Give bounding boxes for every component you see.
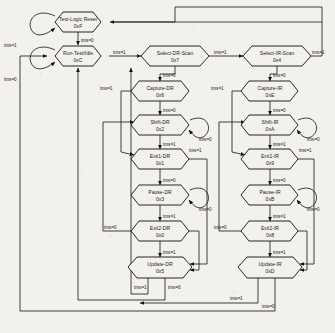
label-pauseir-self: tms=0 xyxy=(307,207,320,212)
label-seldr-to-capdr: tms=0 xyxy=(163,73,176,78)
state-run-test-idle[interactable]: Run-Test/Idle 0xC xyxy=(55,46,101,66)
label-exit1ir-to-pause: tms=0 xyxy=(273,178,286,183)
state-code: 0x8 xyxy=(266,232,274,238)
state-code: 0xA xyxy=(266,126,275,132)
edge-pauseir-self xyxy=(297,188,317,208)
label-capdr-to-shiftdr: tms=0 xyxy=(163,108,176,113)
state-pause-dr[interactable]: Pause-DR 0x3 xyxy=(131,185,189,205)
edge-tlr-self xyxy=(30,13,55,35)
state-code: 0xD xyxy=(265,268,274,274)
state-name: Exit1-DR xyxy=(150,153,171,159)
label-rti-self: tms=0 xyxy=(4,77,17,82)
label-shiftdr-to-exit1: tms=1 xyxy=(163,142,176,147)
state-select-ir-scan[interactable]: Select-IR-Scan 0x4 xyxy=(243,46,311,66)
label-seldr-to-selir: tms=1 xyxy=(214,50,227,55)
state-code: 0x6 xyxy=(156,92,164,98)
label-pausedr-to-exit2: tms=1 xyxy=(163,214,176,219)
label-capdr-to-exit1dr: tms=1 xyxy=(100,86,113,91)
state-name: Run-Test/Idle xyxy=(63,50,93,56)
state-pause-ir[interactable]: Pause-IR 0xB xyxy=(241,185,298,205)
state-code: 0xB xyxy=(266,196,275,202)
label-exit2dr-to-update: tms=1 xyxy=(163,250,176,255)
label-pauseir-to-exit2: tms=1 xyxy=(273,214,286,219)
state-shift-ir[interactable]: Shift-IR 0xA xyxy=(241,115,298,135)
state-code: 0x4 xyxy=(273,57,281,63)
state-name: Exit2-DR xyxy=(150,225,171,231)
state-test-logic-reset[interactable]: Test-Logic Reset 0xF xyxy=(55,12,101,32)
label-exit1dr-to-update: tms=1 xyxy=(189,148,202,153)
state-code: 0x0 xyxy=(156,232,164,238)
edge-shiftdr-self xyxy=(189,118,209,138)
state-diagram-canvas: tms=1 tms=0 tms=0 tms=1 tms=1 tms=0 tms=… xyxy=(0,0,335,333)
label-capir-to-exit1ir: tms=1 xyxy=(211,86,224,91)
state-name: Exit2-IR xyxy=(261,225,279,231)
state-name: Update-IR xyxy=(258,261,282,267)
state-capture-dr[interactable]: Capture-DR 0x6 xyxy=(131,81,189,101)
label-updateir-to-sel: tms=1 xyxy=(230,296,243,301)
label-rti-to-seldr: tms=1 xyxy=(113,50,126,55)
label-pausedr-self: tms=0 xyxy=(199,207,212,212)
state-code: 0xF xyxy=(74,23,83,29)
state-update-ir[interactable]: Update-IR 0xD xyxy=(238,257,302,278)
state-exit1-ir[interactable]: Exit1-IR 0x9 xyxy=(241,149,298,169)
state-name: Capture-IR xyxy=(258,85,283,91)
label-tlr-to-rti: tms=0 xyxy=(81,38,94,43)
edge-rti-self xyxy=(30,47,55,69)
state-exit2-ir[interactable]: Exit2-IR 0x8 xyxy=(241,221,298,241)
state-exit2-dr[interactable]: Exit2-DR 0x0 xyxy=(131,221,189,241)
label-exit2dr-to-shift: tms=0 xyxy=(104,225,117,230)
label-updatedr-to-rti: tms=0 xyxy=(168,285,181,290)
state-update-dr[interactable]: Update-DR 0x5 xyxy=(128,257,192,278)
edge-exit2dr-to-shiftdr xyxy=(103,122,134,231)
label-shiftir-self: tms=0 xyxy=(307,137,320,142)
label-selir-to-capir: tms=0 xyxy=(273,73,286,78)
state-name: Exit1-IR xyxy=(261,153,279,159)
state-code: 0x1 xyxy=(156,160,164,166)
state-name: Pause-DR xyxy=(148,189,172,195)
state-name: Shift-IR xyxy=(262,119,279,125)
label-selir-to-tlr: tms=1 xyxy=(312,50,325,55)
state-code: 0x2 xyxy=(156,126,164,132)
state-capture-ir[interactable]: Capture-IR 0xE xyxy=(241,81,298,101)
state-code: 0x9 xyxy=(266,160,274,166)
state-name: Test-Logic Reset xyxy=(59,16,98,22)
state-name: Update-DR xyxy=(147,261,173,267)
state-name: Shift-DR xyxy=(150,119,170,125)
label-exit2ir-to-shift: tms=0 xyxy=(214,225,227,230)
state-name: Capture-DR xyxy=(146,85,173,91)
state-name: Select-DR-Scan xyxy=(157,50,194,56)
label-shiftir-to-exit1: tms=1 xyxy=(273,142,286,147)
label-tlr-self: tms=1 xyxy=(4,43,17,48)
label-updateir-to-rti: tms=0 xyxy=(262,304,275,309)
state-code: 0x5 xyxy=(156,268,164,274)
label-shiftdr-self: tms=0 xyxy=(199,137,212,142)
label-exit1dr-to-pause: tms=0 xyxy=(163,178,176,183)
state-machine-svg: tms=1 tms=0 tms=0 tms=1 tms=1 tms=0 tms=… xyxy=(0,0,335,333)
state-code: 0xC xyxy=(73,57,82,63)
label-capir-to-shiftir: tms=0 xyxy=(273,108,286,113)
state-code: 0x3 xyxy=(156,196,164,202)
edge-pausedr-self xyxy=(189,188,209,208)
label-exit1ir-to-update: tms=1 xyxy=(299,148,312,153)
label-updatedr-to-sel: tms=1 xyxy=(134,285,147,290)
state-shift-dr[interactable]: Shift-DR 0x2 xyxy=(131,115,189,135)
edge-shiftir-self xyxy=(297,118,317,138)
state-code: 0x7 xyxy=(171,57,179,63)
state-name: Pause-IR xyxy=(259,189,281,195)
state-select-dr-scan[interactable]: Select-DR-Scan 0x7 xyxy=(141,46,209,66)
label-exit2ir-to-update: tms=1 xyxy=(273,250,286,255)
state-code: 0xE xyxy=(266,92,275,98)
state-exit1-dr[interactable]: Exit1-DR 0x1 xyxy=(131,149,189,169)
state-name: Select-IR-Scan xyxy=(260,50,294,56)
